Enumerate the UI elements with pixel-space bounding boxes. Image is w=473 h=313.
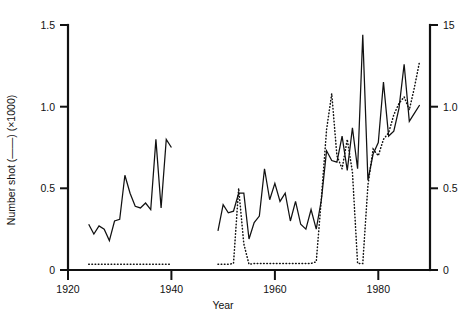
right-tick-label-0: 0 <box>443 264 449 276</box>
x-tick-label-1920: 1920 <box>56 283 80 295</box>
right-tick-label-1_5: 15 <box>443 19 455 31</box>
x-axis-title: Year <box>212 299 234 311</box>
y-axis-title: Number shot (——) (×1000) <box>5 95 17 225</box>
x-tick-label-1940: 1940 <box>160 283 184 295</box>
series-layer <box>89 35 420 264</box>
x-tick-label-1980: 1980 <box>367 283 391 295</box>
line-chart: 1.5 1.0 0.5 0 15 1.0 0.5 0 1920 1940 196… <box>0 0 473 313</box>
left-tick-label-1_5: 1.5 <box>40 19 55 31</box>
x-tick-label-1960: 1960 <box>263 283 287 295</box>
solid-series-segment-2 <box>218 35 420 239</box>
right-tick-label-1_0: 1.0 <box>443 101 458 113</box>
right-tick-label-0_5: 0.5 <box>443 182 458 194</box>
left-tick-label-0: 0 <box>49 264 55 276</box>
solid-series-segment-1 <box>89 139 172 240</box>
chart-figure: 1.5 1.0 0.5 0 15 1.0 0.5 0 1920 1940 196… <box>0 0 473 313</box>
left-tick-label-0_5: 0.5 <box>40 182 55 194</box>
left-tick-label-1_0: 1.0 <box>40 101 55 113</box>
